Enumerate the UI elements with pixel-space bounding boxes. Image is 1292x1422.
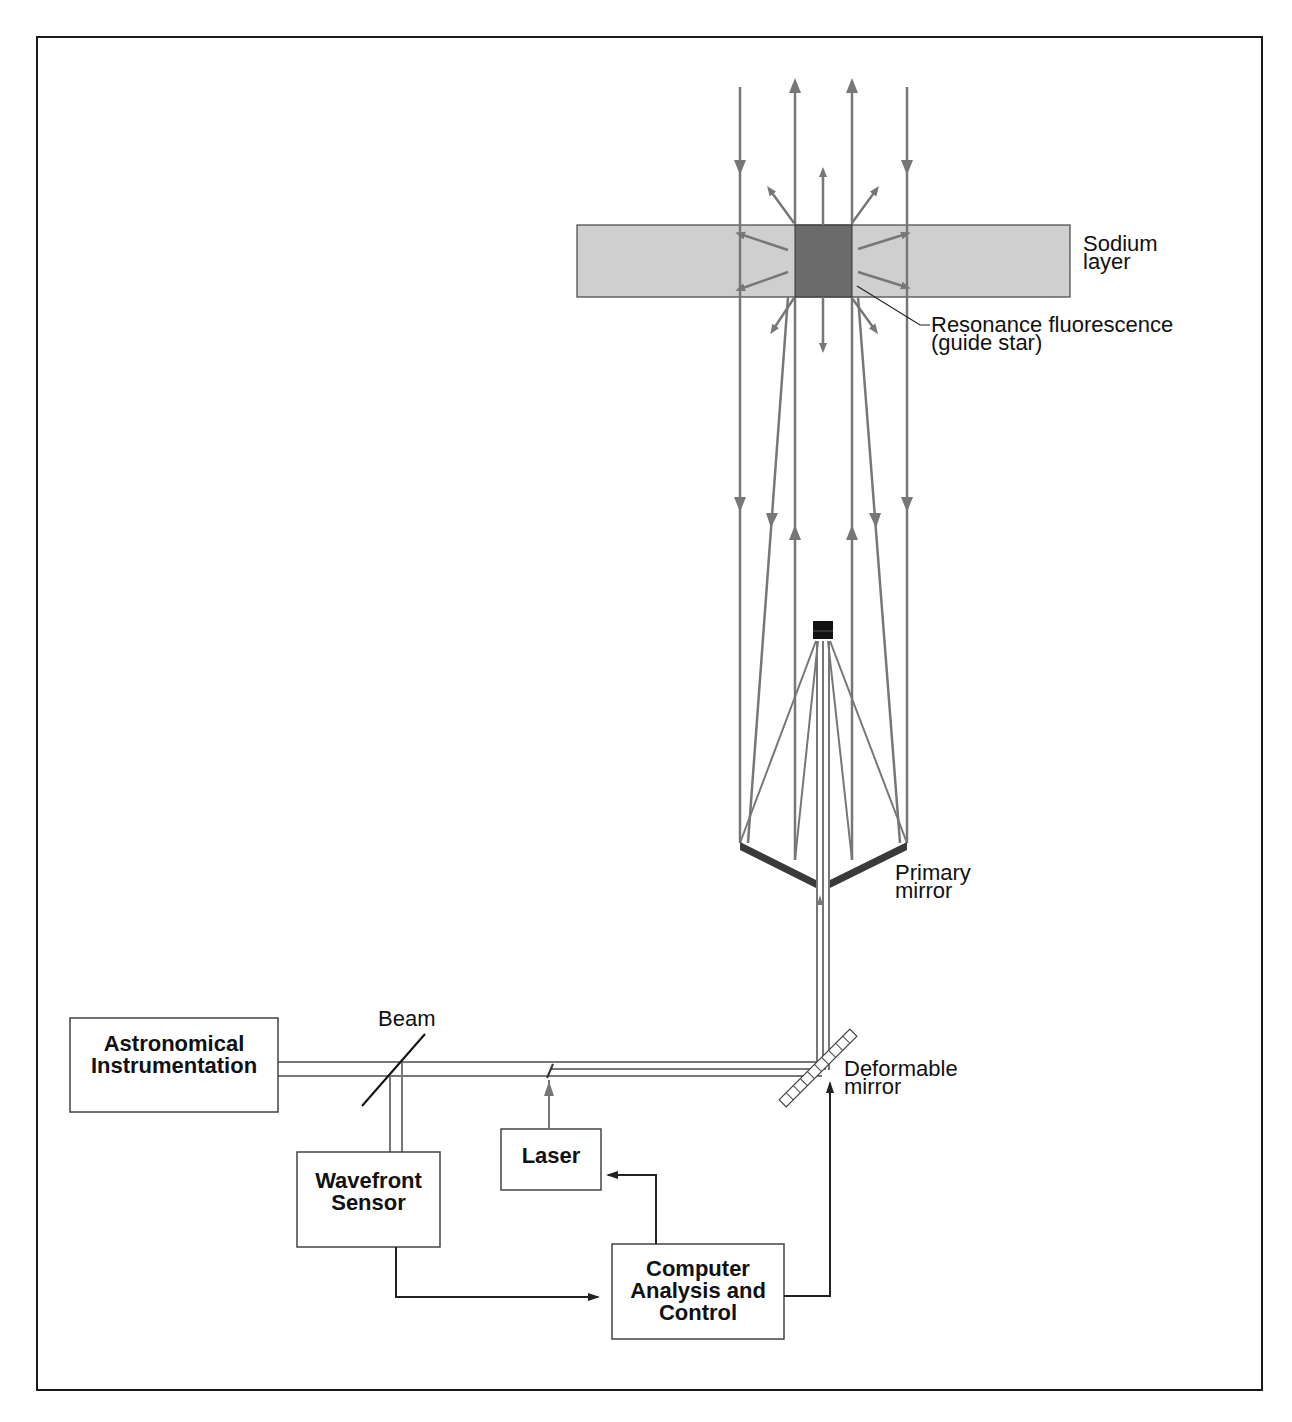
computer-control-label: Computer Analysis and Control (612, 1258, 784, 1324)
guide-star (795, 225, 852, 297)
computer-line1: Computer (612, 1258, 784, 1280)
primary-mirror-label: Primary mirror (895, 862, 971, 902)
deformable-mirror-label: Deformable mirror (844, 1058, 958, 1098)
beam-splitter (362, 1034, 425, 1106)
laser-label: Laser (501, 1145, 601, 1167)
wavefront-sensor-line2: Sensor (297, 1192, 440, 1214)
guide-star-label: Resonance fluorescence (guide star) (931, 314, 1173, 354)
wavefront-sensor-line1: Wavefront (297, 1170, 440, 1192)
astronomical-instrumentation-label: Astronomical Instrumentation (70, 1033, 278, 1077)
computer-line2: Analysis and (612, 1280, 784, 1302)
wavefront-sensor-label: Wavefront Sensor (297, 1170, 440, 1214)
computer-line3: Control (612, 1302, 784, 1324)
astronomical-instrumentation-line2: Instrumentation (70, 1055, 278, 1077)
laser-line1: Laser (501, 1145, 601, 1167)
beam-label: Beam (378, 1008, 435, 1030)
diagram-canvas (0, 0, 1292, 1422)
sodium-layer-label: Sodium layer (1083, 233, 1158, 273)
astronomical-instrumentation-line1: Astronomical (70, 1033, 278, 1055)
secondary-mirror (813, 621, 833, 639)
